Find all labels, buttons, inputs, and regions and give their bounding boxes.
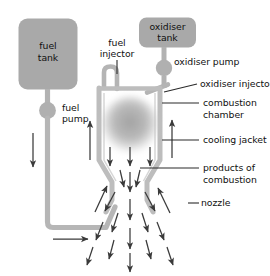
- fuel-pump-label-line2: pump: [62, 114, 89, 125]
- flow-arrow-group: [33, 120, 173, 272]
- arrow-products-5: [136, 170, 140, 187]
- fuel-injector: [104, 67, 117, 90]
- arrow-jacket-up-lower-right: [158, 188, 170, 213]
- oxidiser-tank-label-line2: tank: [139, 33, 196, 44]
- combustion-zone: [102, 97, 158, 154]
- oxidiser-pump-label: oxidiser pump: [174, 57, 239, 68]
- combustion-chamber-label-line1: combustion: [203, 98, 257, 109]
- arrow-exhaust-5: [142, 213, 148, 232]
- fuel-tank-label-line1: fuel: [18, 41, 78, 52]
- arrow-exhaust-7: [157, 222, 164, 240]
- products-label-line2: combustion: [203, 175, 257, 186]
- oxidiser-tank-label-line1: oxidiser: [139, 22, 196, 33]
- arrow-exhaust-6: [96, 222, 103, 240]
- cooling-jacket-label: cooling jacket: [203, 135, 267, 146]
- arrow-exhaust-12: [167, 247, 173, 265]
- rocket-engine-diagram: fuel tank oxidiser tank fuel pump fuel i…: [0, 0, 270, 276]
- oxidiser-pump: [156, 60, 172, 76]
- oxidiser-injector-label: oxidiser injector: [200, 79, 270, 90]
- fuel-pump-label-line1: fuel: [62, 103, 79, 114]
- arrow-products-4: [120, 170, 124, 187]
- fuel-injector-label-line2: injector: [89, 49, 145, 60]
- products-label-line1: products of: [203, 163, 255, 174]
- fuel-injector-label-line1: fuel: [93, 38, 141, 49]
- fuel-tank-label-line2: tank: [18, 53, 78, 64]
- arrow-exhaust-10: [146, 240, 151, 259]
- nozzle-label: nozzle: [201, 198, 230, 209]
- combustion-chamber-label-line2: chamber: [203, 110, 244, 121]
- arrow-exhaust-9: [109, 240, 114, 259]
- arrow-exhaust-11: [87, 247, 93, 265]
